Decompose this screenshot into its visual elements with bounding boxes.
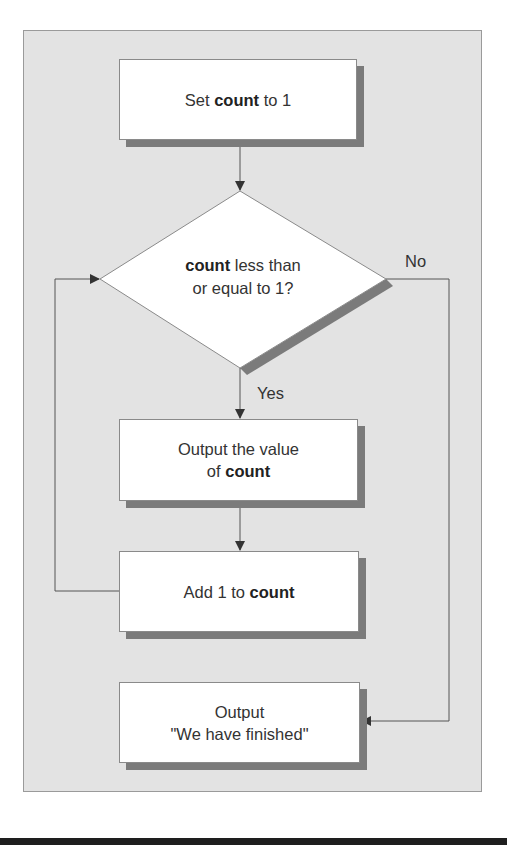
node-decision-text: count less than or equal to 1? [140, 254, 346, 300]
node-increment: Add 1 to count [119, 551, 359, 632]
node-set-count: Set count to 1 [119, 59, 357, 140]
bottom-divider-bar [0, 838, 507, 845]
node-finish: Output "We have finished" [119, 682, 360, 763]
edge-label-no: No [405, 252, 426, 271]
edge-label-yes: Yes [257, 384, 284, 403]
node-output-value: Output the value of count [119, 419, 358, 501]
